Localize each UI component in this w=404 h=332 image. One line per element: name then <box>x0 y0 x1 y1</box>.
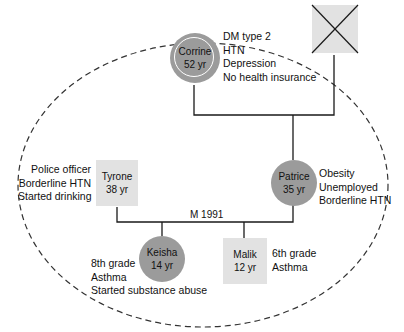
marriage-label: M 1991 <box>190 209 223 220</box>
person-name: Corrine <box>179 45 212 58</box>
genogram: Corrine 52 yr DM type 2 HTN Depression N… <box>0 0 404 332</box>
patrice-notes: Obesity Unemployed Borderline HTN <box>319 167 391 208</box>
person-age: 38 yr <box>106 183 128 196</box>
tyrone-notes: Police officer Borderline HTN Started dr… <box>18 163 91 204</box>
person-age: 35 yr <box>283 183 305 196</box>
person-age: 52 yr <box>184 58 206 71</box>
keisha-notes: 8th grade Asthma Started substance abuse <box>91 257 207 298</box>
corrine-notes: DM type 2 HTN Depression No health insur… <box>223 30 316 84</box>
person-name: Malik <box>233 248 256 261</box>
person-name: Tyrone <box>102 170 133 183</box>
person-tyrone: Tyrone 38 yr <box>96 160 138 206</box>
person-malik: Malik 12 yr <box>223 238 267 284</box>
person-corrine: Corrine 52 yr <box>170 33 220 83</box>
malik-notes: 6th grade Asthma <box>272 247 316 274</box>
person-patrice: Patrice 35 yr <box>271 160 317 206</box>
deceased-grandfather-symbol <box>312 5 358 53</box>
person-name: Patrice <box>278 170 309 183</box>
person-age: 12 yr <box>234 261 256 274</box>
